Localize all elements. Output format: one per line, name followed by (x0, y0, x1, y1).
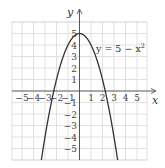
parabola-chart: −5−4−3−2−11234554321−1−2−3−4−5 x y y = 5… (0, 0, 165, 168)
y-axis-label: y (66, 6, 74, 19)
y-tick-label: −5 (64, 144, 78, 154)
y-tick-label: 3 (71, 52, 77, 62)
y-tick-label: −2 (64, 110, 77, 120)
equation-text: y = 5 − x (95, 43, 141, 54)
y-tick-label: −4 (64, 133, 78, 143)
x-tick-label: 2 (100, 93, 106, 103)
x-axis-label: x (152, 94, 159, 107)
x-tick-label: 3 (111, 93, 117, 103)
y-tick-label: −3 (64, 121, 78, 131)
equation-exponent: 2 (141, 42, 145, 50)
x-tick-label: 4 (123, 93, 129, 103)
y-tick-label: 4 (71, 41, 77, 51)
x-tick-label: 1 (88, 93, 94, 103)
y-tick-label: 1 (71, 75, 77, 85)
y-tick-label: −1 (64, 98, 77, 108)
equation-label: y = 5 − x2 (95, 42, 145, 54)
x-tick-label: 5 (134, 93, 140, 103)
y-tick-label: 2 (71, 64, 77, 74)
